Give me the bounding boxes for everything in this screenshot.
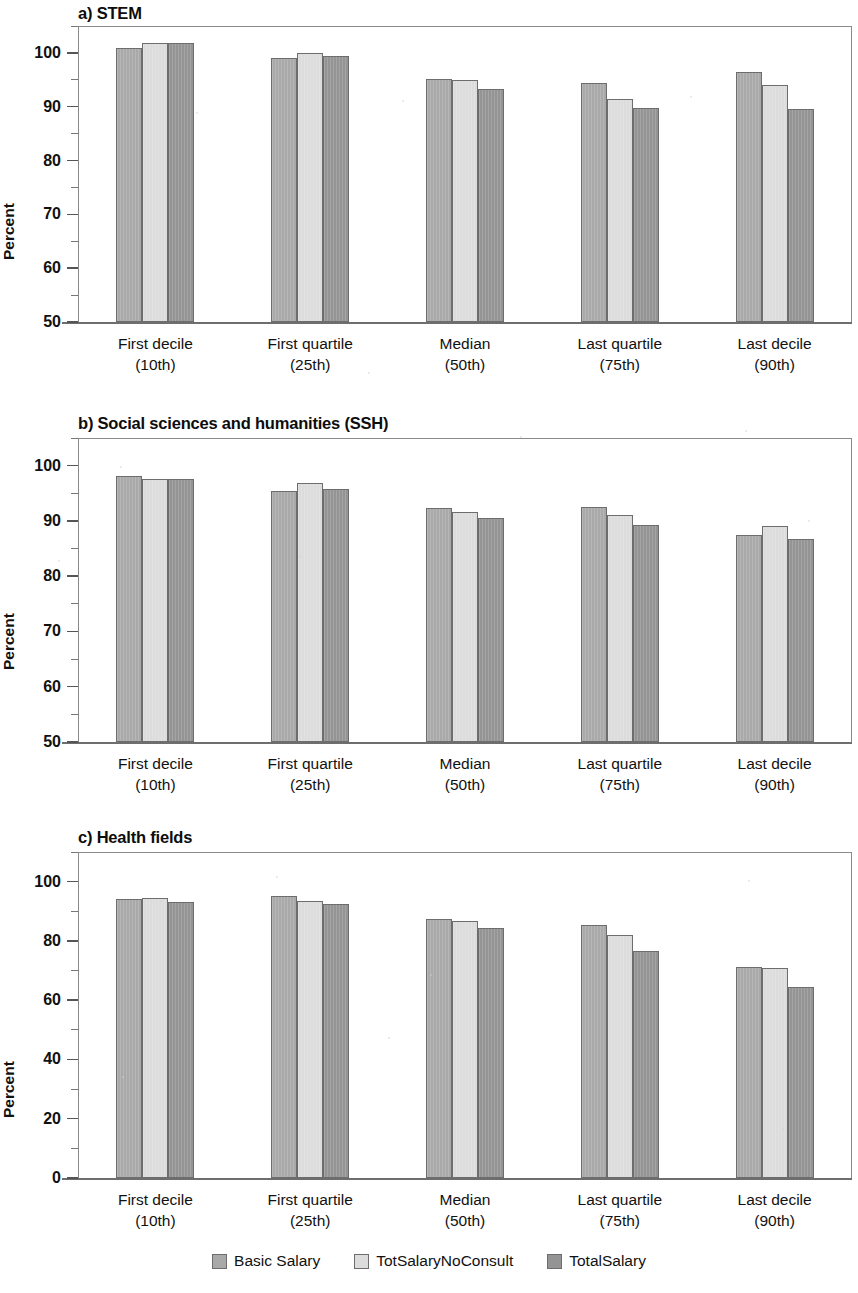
x-axis-category-sub: (90th) bbox=[697, 355, 852, 376]
panel-a-y-tick-80 bbox=[67, 160, 78, 162]
panel-c-y-tick-0 bbox=[67, 1177, 78, 1179]
bar bbox=[581, 925, 607, 1178]
bar bbox=[633, 951, 659, 1178]
x-axis-category-label: Last decile(90th) bbox=[697, 754, 852, 796]
bar bbox=[607, 935, 633, 1178]
panel-a-y-tick-100 bbox=[67, 52, 78, 54]
scan-speckle bbox=[388, 1037, 390, 1039]
bar bbox=[736, 72, 762, 322]
x-axis-category-main: First quartile bbox=[268, 1191, 353, 1208]
scan-speckle bbox=[600, 1214, 602, 1216]
bar bbox=[116, 899, 142, 1178]
x-axis-category-main: First quartile bbox=[268, 335, 353, 352]
bar bbox=[607, 515, 633, 742]
bar bbox=[297, 483, 323, 742]
bar bbox=[323, 904, 349, 1178]
x-axis-category-label: First decile(10th) bbox=[78, 1190, 233, 1232]
x-axis-category-sub: (10th) bbox=[78, 1211, 233, 1232]
panel-b-y-minor-tick bbox=[71, 438, 78, 439]
x-axis-category-label: Last quartile(75th) bbox=[542, 1190, 697, 1232]
x-axis-category-sub: (75th) bbox=[542, 355, 697, 376]
bar bbox=[762, 526, 788, 742]
panel-a-y-tick-90 bbox=[67, 106, 78, 108]
scan-speckle bbox=[120, 466, 122, 468]
bar bbox=[736, 535, 762, 742]
bar bbox=[452, 80, 478, 322]
panel-c-title: c) Health fields bbox=[78, 828, 192, 847]
bar bbox=[633, 108, 659, 322]
bar bbox=[116, 476, 142, 742]
scan-speckle bbox=[196, 112, 198, 114]
panel-b-y-tick-100 bbox=[67, 465, 78, 467]
legend-item: TotalSalary bbox=[547, 1252, 646, 1270]
scan-speckle bbox=[745, 430, 747, 432]
x-axis-category-sub: (50th) bbox=[388, 355, 543, 376]
panel-c-y-minor-tick bbox=[71, 852, 78, 853]
x-axis-category-label: Last decile(90th) bbox=[697, 334, 852, 376]
x-axis-category-main: Last decile bbox=[738, 755, 812, 772]
bar bbox=[168, 479, 194, 742]
panel-c-y-tick-label: 0 bbox=[16, 1170, 61, 1186]
panel-c-y-tick-60 bbox=[67, 999, 78, 1001]
legend-label: Basic Salary bbox=[234, 1252, 320, 1270]
x-axis-category-main: First quartile bbox=[268, 755, 353, 772]
legend-item: Basic Salary bbox=[212, 1252, 320, 1270]
x-axis-category-sub: (10th) bbox=[78, 355, 233, 376]
bar bbox=[142, 898, 168, 1178]
panel-c-y-tick-20 bbox=[67, 1118, 78, 1120]
panel-a-y-minor-tick bbox=[71, 295, 78, 296]
x-axis-category-sub: (25th) bbox=[233, 355, 388, 376]
panel-c-y-minor-tick bbox=[71, 970, 78, 971]
legend-swatch-icon bbox=[212, 1254, 227, 1269]
x-axis-category-sub: (25th) bbox=[233, 775, 388, 796]
panel-b-y-tick-label: 60 bbox=[16, 679, 61, 695]
bar bbox=[788, 109, 814, 322]
legend-swatch-icon bbox=[547, 1254, 562, 1269]
bar bbox=[581, 507, 607, 742]
panel-a-y-minor-tick bbox=[71, 79, 78, 80]
x-axis-category-main: First decile bbox=[118, 755, 193, 772]
panel-b-y-minor-tick bbox=[71, 659, 78, 660]
bar bbox=[271, 58, 297, 322]
panel-c-y-minor-tick bbox=[71, 1029, 78, 1030]
x-axis-category-sub: (25th) bbox=[233, 1211, 388, 1232]
scan-speckle bbox=[368, 372, 370, 374]
x-axis-category-label: First quartile(25th) bbox=[233, 1190, 388, 1232]
bar bbox=[581, 83, 607, 322]
x-axis-category-main: First decile bbox=[118, 1191, 193, 1208]
bar bbox=[762, 85, 788, 322]
x-axis-category-main: Median bbox=[440, 755, 491, 772]
scan-speckle bbox=[300, 556, 302, 558]
x-axis-category-label: Median(50th) bbox=[388, 754, 543, 796]
panel-c-health: c) Health fields Percent 020406080100Fir… bbox=[0, 828, 858, 1293]
panel-b-y-minor-tick bbox=[71, 603, 78, 604]
bar bbox=[297, 901, 323, 1178]
bar bbox=[426, 79, 452, 322]
bar bbox=[426, 508, 452, 742]
bar bbox=[297, 53, 323, 322]
panel-a-y-tick-label: 80 bbox=[16, 153, 61, 169]
panel-b-y-tick-label: 100 bbox=[16, 458, 61, 474]
panel-a-y-tick-label: 100 bbox=[16, 45, 61, 61]
scan-speckle bbox=[748, 880, 750, 882]
bar bbox=[271, 896, 297, 1178]
bar bbox=[168, 902, 194, 1178]
panel-a-y-minor-tick bbox=[71, 133, 78, 134]
scan-speckle bbox=[276, 876, 278, 878]
panel-c-y-tick-80 bbox=[67, 940, 78, 942]
scan-speckle bbox=[520, 436, 522, 438]
panel-c-x-axis-line bbox=[62, 1178, 852, 1180]
x-axis-category-main: Last decile bbox=[738, 1191, 812, 1208]
scan-speckle bbox=[166, 370, 168, 372]
x-axis-category-sub: (75th) bbox=[542, 775, 697, 796]
legend-label: TotSalaryNoConsult bbox=[376, 1252, 513, 1270]
x-axis-category-sub: (90th) bbox=[697, 1211, 852, 1232]
x-axis-category-sub: (50th) bbox=[388, 775, 543, 796]
scan-speckle bbox=[430, 974, 432, 976]
bar bbox=[452, 921, 478, 1178]
scan-speckle bbox=[160, 900, 162, 902]
panel-c-y-tick-label: 80 bbox=[16, 933, 61, 949]
panel-b-y-tick-label: 90 bbox=[16, 513, 61, 529]
x-axis-category-label: Last quartile(75th) bbox=[542, 754, 697, 796]
bar bbox=[788, 987, 814, 1178]
